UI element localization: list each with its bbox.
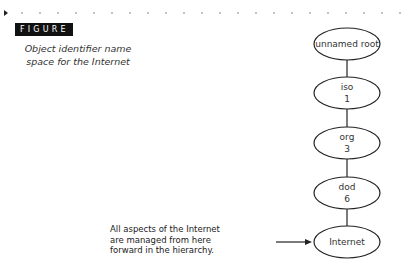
- annotation-line: All aspects of the Internet: [110, 224, 220, 235]
- node-label: org: [340, 132, 355, 142]
- node-number: 6: [344, 194, 350, 204]
- node-number: 3: [344, 144, 350, 154]
- annotation-line: are managed from here: [110, 235, 220, 246]
- annotation-text: All aspects of the Internet are managed …: [110, 224, 220, 256]
- node-number: 1: [344, 94, 350, 104]
- node-label: iso: [341, 82, 354, 92]
- node-label: dod: [339, 182, 356, 192]
- node-label: unnamed root: [315, 39, 379, 49]
- node-label: Internet: [329, 237, 365, 247]
- arrowhead-icon: [305, 239, 312, 245]
- annotation-line: forward in the hierarchy.: [110, 245, 220, 256]
